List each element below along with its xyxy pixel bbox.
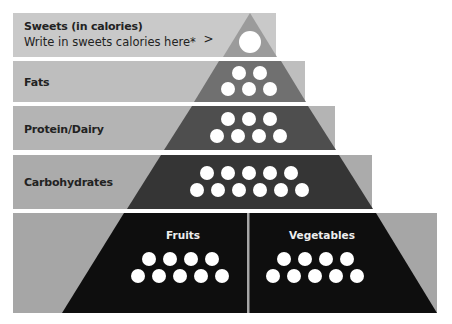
sweets-calories-input[interactable]: Write in sweets calories here* > [24,35,214,49]
label-vegetables: Vegetables [289,229,355,241]
produce-divider [247,213,250,313]
sweets-calories-placeholder: Write in sweets calories here* [24,35,196,49]
serving-dot [239,31,261,53]
label-fats: Fats [24,76,49,89]
label-protein: Protein/Dairy [24,123,104,136]
label-fruits: Fruits [166,229,200,241]
chevron-right-icon[interactable]: > [203,32,213,46]
tri-carbs [127,155,373,209]
label-carbs: Carbohydrates [24,176,113,189]
label-sweets: Sweets (in calories) [24,20,143,33]
